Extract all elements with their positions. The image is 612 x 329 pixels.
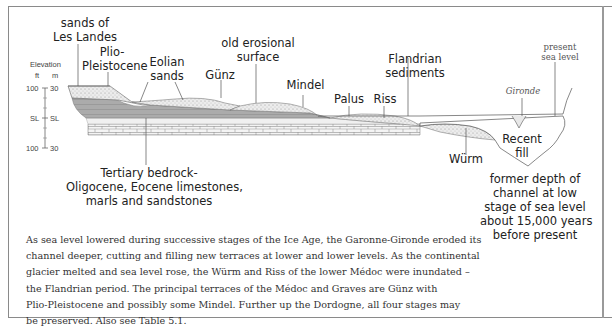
label-line: sands <box>142 69 192 83</box>
tick-m-bottom: 30 <box>50 144 58 153</box>
label-wurm: Würm <box>446 152 486 166</box>
label-gunz: Günz <box>200 68 240 82</box>
label-riss: Riss <box>370 92 400 106</box>
label-mindel: Mindel <box>283 78 328 92</box>
caption-line: Plio-Pleistocene and possibly some Minde… <box>26 297 546 313</box>
label-plio-pleistocene: Plio- Pleistocene <box>82 45 142 73</box>
label-old-erosional-surface: old erosional surface <box>218 36 298 64</box>
label-line: about 15,000 years <box>480 214 590 228</box>
unit-ft: ft <box>35 71 39 80</box>
label-recent-fill: Recent fill <box>500 132 544 160</box>
label-eolian-sands: Eolian sands <box>142 55 192 83</box>
label-line: Oligocene, Eocene limestones, <box>66 180 232 194</box>
elevation-scale <box>42 88 48 148</box>
caption-line: glacier melted and sea level rose, the W… <box>26 264 546 280</box>
label-line: sediments <box>380 66 450 80</box>
label-line: fill <box>500 146 544 160</box>
label-line: Recent <box>500 132 544 146</box>
tick-ft-sl: SL <box>30 114 39 123</box>
label-line: marls and sandstones <box>66 194 232 208</box>
elevation-title: Elevation <box>30 60 61 69</box>
label-line: old erosional <box>218 36 298 50</box>
tick-ft-bottom: 100 <box>26 144 39 153</box>
label-line: surface <box>218 50 298 64</box>
label-line: Les Landes <box>50 30 120 44</box>
caption-line: channel deeper, cutting and filling new … <box>26 248 546 264</box>
tick-m-sl: SL <box>50 114 59 123</box>
label-line: Tertiary bedrock- <box>66 166 232 180</box>
label-line: Eolian <box>142 55 192 69</box>
label-line: present <box>530 42 590 52</box>
label-present-sea-level: present sea level <box>530 42 590 62</box>
label-line: sea level <box>530 52 590 62</box>
tick-ft-top: 100 <box>26 84 39 93</box>
label-tertiary-bedrock: Tertiary bedrock- Oligocene, Eocene lime… <box>66 166 232 208</box>
label-line: sands of <box>50 16 120 30</box>
label-line: channel at low <box>480 186 590 200</box>
label-line: former depth of <box>480 172 590 186</box>
caption-line: the Flandrian period. The principal terr… <box>26 281 546 297</box>
label-line: Flandrian <box>380 52 450 66</box>
caption-line: As sea level lowered during successive s… <box>26 232 546 248</box>
figure-caption: As sea level lowered during successive s… <box>26 232 546 329</box>
label-line: stage of sea level <box>480 200 590 214</box>
label-flandrian-sediments: Flandrian sediments <box>380 52 450 80</box>
label-gironde: Gironde <box>498 86 548 96</box>
tick-m-top: 30 <box>50 84 58 93</box>
label-line: Pleistocene <box>82 59 142 73</box>
tertiary-limestone-layer <box>88 124 420 135</box>
caption-line: be preserved. Also see Table 5.1. <box>26 313 546 329</box>
label-sands-les-landes: sands of Les Landes <box>50 16 120 44</box>
unit-m: m <box>52 71 58 80</box>
label-palus: Palus <box>330 92 368 106</box>
label-line: Plio- <box>82 45 142 59</box>
